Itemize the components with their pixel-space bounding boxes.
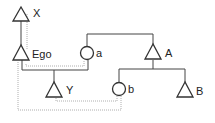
node-A: A	[145, 44, 173, 59]
triangle-icon	[13, 45, 29, 60]
circle-icon	[81, 47, 94, 60]
triangle-icon	[145, 44, 161, 59]
kinship-diagram: X Ego a A Y b B	[0, 0, 215, 123]
label-a: a	[96, 47, 103, 59]
triangle-icon	[46, 82, 62, 97]
marriage-line-ego-a	[22, 59, 88, 70]
circle-icon	[113, 83, 126, 96]
node-B: B	[177, 82, 203, 97]
label-Ego: Ego	[32, 48, 52, 60]
label-B: B	[196, 85, 203, 97]
sibling-line-a-A	[87, 34, 153, 46]
label-X: X	[33, 7, 41, 19]
label-b: b	[128, 83, 134, 95]
node-Y: Y	[46, 82, 74, 97]
label-A: A	[165, 47, 173, 59]
label-Y: Y	[66, 84, 74, 96]
node-b: b	[113, 83, 135, 96]
dotted-ego-a	[26, 60, 84, 66]
triangle-icon	[177, 82, 193, 97]
children-line-b-B	[119, 69, 185, 82]
node-Ego: Ego	[13, 45, 52, 60]
node-a: a	[81, 47, 104, 60]
